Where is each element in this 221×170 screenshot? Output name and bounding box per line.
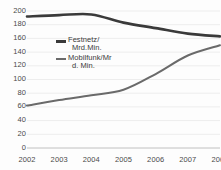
x-tick-label: 2003 <box>45 156 73 164</box>
x-tick-label: 2007 <box>174 156 202 164</box>
chart-legend: Festnetz/ Mrd.Min. Mobilfunk/Mr d. Min. <box>56 36 128 71</box>
legend-label-festnetz-line2: Mrd.Min. <box>68 44 102 52</box>
x-tick-label: 2002 <box>13 156 41 164</box>
x-tick-label: 2008 <box>206 156 221 164</box>
line-chart: 020406080100120140160180200 200220032004… <box>0 0 221 170</box>
legend-line-swatch-icon <box>56 58 66 60</box>
legend-label-festnetz: Festnetz/ Mrd.Min. <box>68 36 102 53</box>
legend-line-swatch-icon <box>56 40 66 43</box>
x-tick-label: 2006 <box>142 156 170 164</box>
legend-item-mobilfunk: Mobilfunk/Mr d. Min. <box>56 54 128 71</box>
x-tick-label: 2004 <box>77 156 105 164</box>
legend-label-mobilfunk-line2: d. Min. <box>68 62 112 70</box>
legend-label-mobilfunk: Mobilfunk/Mr d. Min. <box>68 54 112 71</box>
legend-item-festnetz: Festnetz/ Mrd.Min. <box>56 36 128 53</box>
x-axis-tick-labels: 2002200320042005200620072008 <box>0 0 221 170</box>
x-tick-label: 2005 <box>110 156 138 164</box>
